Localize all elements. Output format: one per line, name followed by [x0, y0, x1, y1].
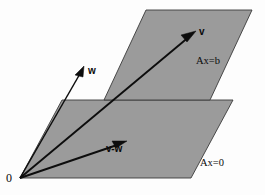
diagram-canvas [0, 0, 265, 195]
vector-v-label: v [199, 27, 204, 37]
upper-plane-shape [104, 10, 252, 100]
upper-plane-label: Ax=b [196, 56, 220, 67]
vector-w-label: w [88, 66, 96, 76]
vector-v-minus-w-label: v-w [106, 144, 122, 154]
lower-plane-label: Ax=0 [200, 158, 224, 169]
vector-w-arrowhead [75, 66, 84, 77]
vector-plane-diagram: v w v-w Ax=b Ax=0 0 [0, 0, 265, 195]
origin-label: 0 [6, 172, 12, 184]
